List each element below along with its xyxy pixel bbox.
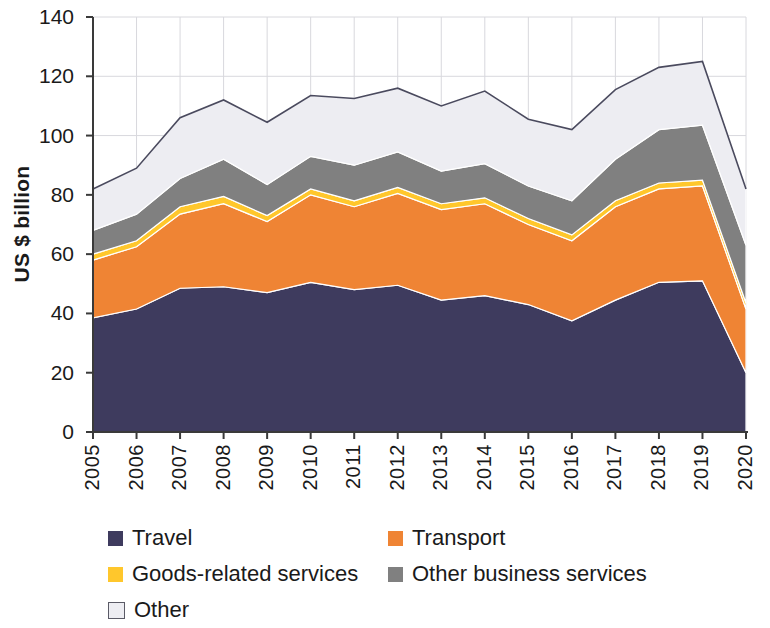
legend-swatch-icon [108,602,125,619]
legend-row: Other [108,592,768,628]
legend-swatch-icon [108,531,123,546]
legend-label: Travel [132,525,192,551]
legend-item-transport[interactable]: Transport [388,525,505,551]
legend-item-other[interactable]: Other [108,597,189,623]
legend-swatch-icon [108,567,123,582]
legend-item-travel[interactable]: Travel [108,525,388,551]
legend-swatch-icon [388,531,403,546]
legend-label: Goods-related services [132,561,358,587]
legend-label: Transport [412,525,505,551]
area-series-group [93,61,746,432]
legend-label: Other [134,597,189,623]
legend-item-goods-related-services[interactable]: Goods-related services [108,561,388,587]
chart-container: US $ billion 020406080100120140 20052006… [0,0,770,628]
legend-row: TravelTransport [108,520,768,556]
legend-item-other-business-services[interactable]: Other business services [388,561,647,587]
chart-legend: TravelTransportGoods-related servicesOth… [108,520,768,628]
legend-swatch-icon [388,567,403,582]
area-travel [93,281,746,432]
legend-label: Other business services [412,561,647,587]
legend-row: Goods-related servicesOther business ser… [108,556,768,592]
